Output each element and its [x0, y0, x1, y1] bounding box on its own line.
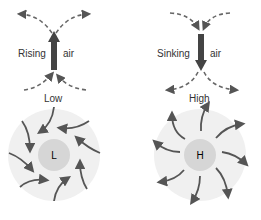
sinking-air-arrow — [195, 34, 207, 71]
rising-label: Rising — [18, 48, 46, 59]
high-title: High — [189, 93, 210, 104]
pressure-systems-diagram: L H — [0, 0, 261, 220]
low-center-letter: L — [51, 150, 57, 161]
low-aloft-divergence-arrows — [20, 14, 88, 33]
high-center-letter: H — [196, 150, 203, 161]
rising-air-arrow — [48, 31, 60, 70]
sinking-air-label: air — [210, 48, 221, 59]
rising-air-label: air — [63, 48, 74, 59]
sinking-label: Sinking — [157, 48, 190, 59]
high-aloft-convergence-arrows — [170, 13, 230, 28]
low-surface-convergence-arrows — [24, 74, 86, 90]
low-title: Low — [44, 93, 62, 104]
high-surface-divergence-arrows — [168, 72, 236, 90]
